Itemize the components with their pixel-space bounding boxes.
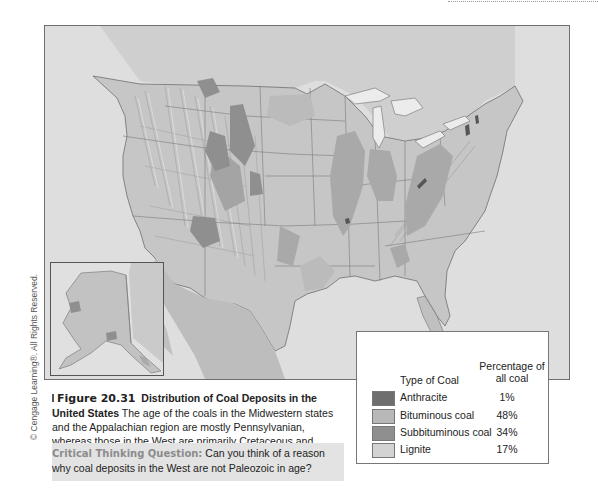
legend-label: Subbituminous coal — [400, 426, 492, 438]
legend-label: Bituminous coal — [400, 409, 474, 421]
caption-marker-icon — [52, 394, 54, 402]
coal-type-legend: Type of Coal Percentage of all coal Anth… — [356, 331, 549, 464]
lignite-swatch — [372, 443, 395, 458]
legend-header-type: Type of Coal — [400, 374, 459, 386]
legend-header-pct-line1: Percentage of — [477, 360, 547, 372]
legend-item-anthracite: Anthracite 1% — [372, 391, 542, 406]
legend-percent: 1% — [482, 391, 532, 403]
bituminous-swatch — [372, 409, 395, 424]
legend-header-pct-line2: all coal — [477, 372, 547, 384]
legend-label: Anthracite — [400, 391, 447, 403]
legend-item-lignite: Lignite 17% — [372, 443, 542, 458]
page-rule — [448, 1, 598, 2]
alaska-inset — [50, 262, 164, 376]
critical-thinking-box: Critical Thinking Question: Can you thin… — [52, 443, 344, 481]
legend-percent: 34% — [482, 426, 532, 438]
legend-header-percentage: Percentage of all coal — [477, 360, 547, 384]
critical-thinking-label: Critical Thinking Question: — [52, 448, 202, 459]
legend-label: Lignite — [400, 443, 431, 455]
subbituminous-swatch — [372, 426, 395, 441]
legend-item-subbituminous: Subbituminous coal 34% — [372, 426, 542, 441]
legend-item-bituminous: Bituminous coal 48% — [372, 409, 542, 424]
legend-percent: 17% — [482, 443, 532, 455]
anthracite-swatch — [372, 391, 395, 406]
figure-number: Figure 20.31 — [57, 392, 136, 405]
legend-percent: 48% — [482, 409, 532, 421]
copyright-text: © Cengage Learning®. All Rights Reserved… — [29, 274, 39, 440]
alaska-map-graphic — [51, 263, 163, 375]
